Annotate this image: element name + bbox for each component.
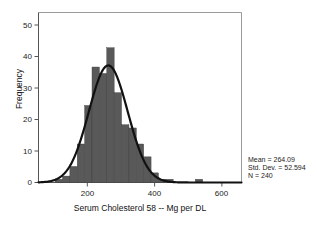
y-tick-text-30: 30 bbox=[23, 84, 32, 93]
bar bbox=[99, 73, 106, 182]
bar bbox=[122, 125, 129, 183]
bar bbox=[114, 93, 121, 183]
y-tick-text-20: 20 bbox=[23, 115, 32, 124]
y-tick-label-30: 30 bbox=[14, 84, 32, 93]
x-tick-text-600: 600 bbox=[215, 189, 228, 198]
bar bbox=[62, 176, 69, 182]
x-axis-title-text: Serum Cholesterol 58 -- Mg per DL bbox=[74, 203, 206, 213]
y-tick-label-10: 10 bbox=[14, 147, 32, 156]
y-tick-text-40: 40 bbox=[23, 52, 32, 61]
stats-mean: Mean = 264.09 bbox=[248, 156, 306, 164]
x-tick-label-600: 600 bbox=[209, 189, 234, 198]
x-tick-text-200: 200 bbox=[81, 189, 94, 198]
stats-std-dev: Std. Dev. = 52.594 bbox=[248, 164, 306, 172]
stats-n: N = 240 bbox=[248, 172, 306, 180]
bar bbox=[70, 166, 77, 182]
y-axis-ticks bbox=[35, 25, 39, 183]
x-tick-text-400: 400 bbox=[148, 189, 161, 198]
x-tick-label-400: 400 bbox=[142, 189, 167, 198]
y-tick-text-50: 50 bbox=[23, 21, 32, 30]
y-tick-label-50: 50 bbox=[14, 21, 32, 30]
x-tick-label-200: 200 bbox=[75, 189, 100, 198]
y-tick-text-10: 10 bbox=[23, 147, 32, 156]
x-axis-title: Serum Cholesterol 58 -- Mg per DL bbox=[38, 203, 242, 213]
stats-annotation: Mean = 264.09 Std. Dev. = 52.594 N = 240 bbox=[248, 156, 306, 181]
y-tick-text-0: 0 bbox=[28, 178, 32, 187]
y-tick-label-40: 40 bbox=[14, 52, 32, 61]
y-tick-label-20: 20 bbox=[14, 115, 32, 124]
y-tick-label-0: 0 bbox=[18, 178, 32, 187]
